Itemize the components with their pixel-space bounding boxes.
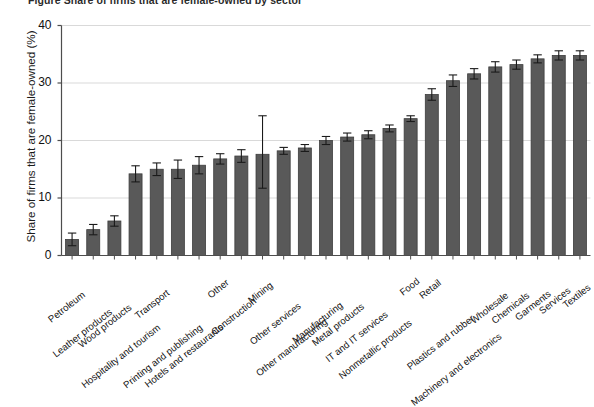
bar [552,55,565,255]
figure-title: Figure Share of firms that are female-ow… [0,0,594,6]
bar-group [446,75,459,256]
bar [362,135,375,256]
bar [150,169,163,255]
bar-group [235,150,248,256]
bar [489,67,502,256]
bar-group [510,60,523,256]
bar-group [425,89,438,256]
bar-group [171,160,184,255]
bar [235,156,248,255]
bar [468,74,481,256]
bar [510,65,523,256]
bar-group [320,136,333,255]
bar-group [150,163,163,256]
bar-group [552,51,565,256]
y-tick-label: 20 [26,133,52,147]
bar [320,141,333,256]
bar [425,95,438,256]
bar-group [573,51,586,256]
bar-group [277,147,290,255]
bar-group [108,216,121,256]
bar-group [256,116,269,256]
bar-group [362,131,375,256]
y-tick-label: 10 [26,190,52,204]
bar [383,128,396,255]
bar-group [468,69,481,256]
bar [214,159,227,256]
bar-group [531,55,544,256]
bar-group [66,233,79,255]
bar [171,169,184,255]
bar [341,137,354,255]
bar-group [87,224,100,255]
bar [298,148,311,256]
bar-group [214,154,227,256]
bar-group [489,62,502,256]
bar [277,151,290,256]
bar [446,81,459,256]
bar-group [129,166,142,256]
bar-group [193,157,206,256]
bar-group [298,145,311,256]
bar-group [341,133,354,255]
y-tick-label: 40 [26,18,52,32]
bar [404,119,417,256]
bar-group [404,116,417,256]
bar [573,55,586,255]
y-tick-label: 30 [26,75,52,89]
bar-group [383,125,396,256]
bar [129,174,142,256]
bar [531,59,544,256]
bar [193,165,206,255]
y-tick-label: 0 [26,248,52,262]
